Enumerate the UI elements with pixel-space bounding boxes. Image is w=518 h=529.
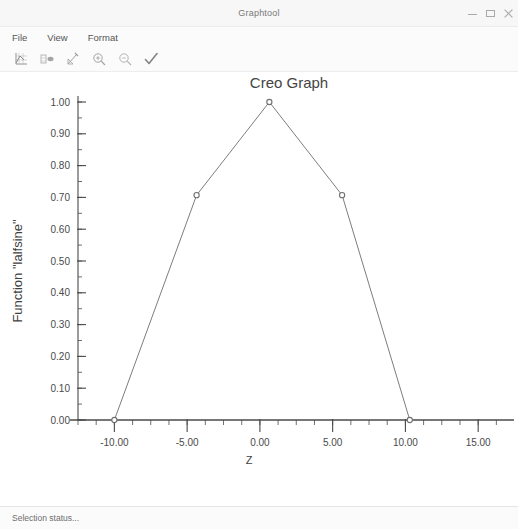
edit-curve-icon[interactable]: [64, 50, 82, 68]
title-bar: Graphtool: [0, 0, 518, 27]
menu-item-view[interactable]: View: [45, 31, 69, 44]
graphtool-window: Graphtool File View Format: [0, 0, 518, 529]
x-axis-tick-label: -10.00: [100, 437, 129, 448]
close-icon[interactable]: [503, 8, 514, 19]
y-axis-tick-label: 0.80: [51, 160, 71, 171]
x-axis-label: Z: [246, 454, 253, 466]
menu-item-file[interactable]: File: [10, 31, 29, 44]
window-controls: [467, 0, 514, 26]
minimize-icon[interactable]: [467, 8, 478, 19]
accept-check-icon[interactable]: [142, 50, 160, 68]
x-axis-tick-label: 15.00: [466, 437, 491, 448]
y-axis-tick-label: 0.90: [51, 128, 71, 139]
zoom-out-icon[interactable]: [116, 50, 134, 68]
data-point-marker[interactable]: [340, 193, 345, 198]
data-point-marker[interactable]: [407, 417, 412, 422]
y-axis-tick-label: 0.60: [51, 224, 71, 235]
x-axis-tick-label: -5.00: [176, 437, 199, 448]
x-axis-tick-label: 0.00: [250, 437, 270, 448]
chart-title: Creo Graph: [250, 74, 328, 91]
menu-bar: File View Format: [0, 27, 518, 47]
zoom-in-icon[interactable]: [90, 50, 108, 68]
data-line: [114, 102, 409, 420]
y-axis-tick-label: 0.50: [51, 256, 71, 267]
data-point-marker[interactable]: [112, 417, 117, 422]
table-view-icon[interactable]: [38, 50, 56, 68]
creo-graph-chart: Creo Graph0.000.100.200.300.400.500.600.…: [0, 72, 518, 506]
x-axis-tick-label: 10.00: [393, 437, 418, 448]
window-title: Graphtool: [238, 8, 279, 18]
y-axis-tick-label: 0.00: [51, 415, 71, 426]
plot-area[interactable]: Creo Graph0.000.100.200.300.400.500.600.…: [0, 72, 518, 506]
maximize-icon[interactable]: [485, 8, 496, 19]
menu-item-format[interactable]: Format: [86, 31, 120, 44]
graph-axes-icon[interactable]: [12, 50, 30, 68]
x-axis-tick-label: 5.00: [323, 437, 343, 448]
y-axis-tick-label: 0.20: [51, 351, 71, 362]
y-axis-tick-label: 0.70: [51, 192, 71, 203]
y-axis-tick-label: 0.10: [51, 383, 71, 394]
y-axis-tick-label: 0.30: [51, 319, 71, 330]
y-axis-label: Function "lalfsine": [10, 219, 25, 323]
status-text: Selection status...: [12, 513, 79, 523]
y-axis-tick-label: 0.40: [51, 287, 71, 298]
data-point-marker[interactable]: [194, 193, 199, 198]
toolbar: [0, 47, 518, 72]
status-bar: Selection status...: [0, 506, 518, 529]
data-point-marker[interactable]: [267, 99, 272, 104]
y-axis-tick-label: 1.00: [51, 97, 71, 108]
